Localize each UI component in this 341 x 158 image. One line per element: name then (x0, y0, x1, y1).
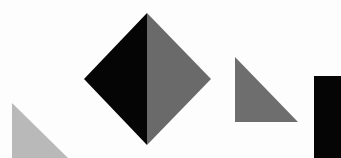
diamond-left-half (84, 13, 147, 145)
right-triangle-gray (235, 57, 298, 122)
diamond-right-half (147, 13, 211, 145)
light-triangle (12, 103, 68, 158)
shapes-canvas (0, 0, 341, 158)
black-rectangle (314, 76, 341, 158)
